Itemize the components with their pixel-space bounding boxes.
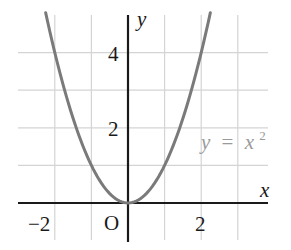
origin-label: O [104, 211, 119, 235]
x-axis-label: x [259, 178, 270, 202]
tick-y-2: 2 [108, 117, 119, 141]
y-axis-label: y [135, 7, 147, 31]
grid-lines [18, 15, 268, 240]
tick-y-4: 4 [108, 42, 119, 66]
tick-x-neg2: −2 [28, 212, 50, 236]
eq-x: x [244, 130, 255, 154]
parabola-chart: y x O −2 2 4 2 y = x 2 [0, 0, 291, 250]
eq-exponent: 2 [259, 128, 266, 143]
equation-label: y = x 2 [199, 128, 266, 154]
tick-x-2: 2 [195, 212, 206, 236]
eq-y: y [199, 130, 211, 154]
eq-equals: = [222, 130, 234, 154]
